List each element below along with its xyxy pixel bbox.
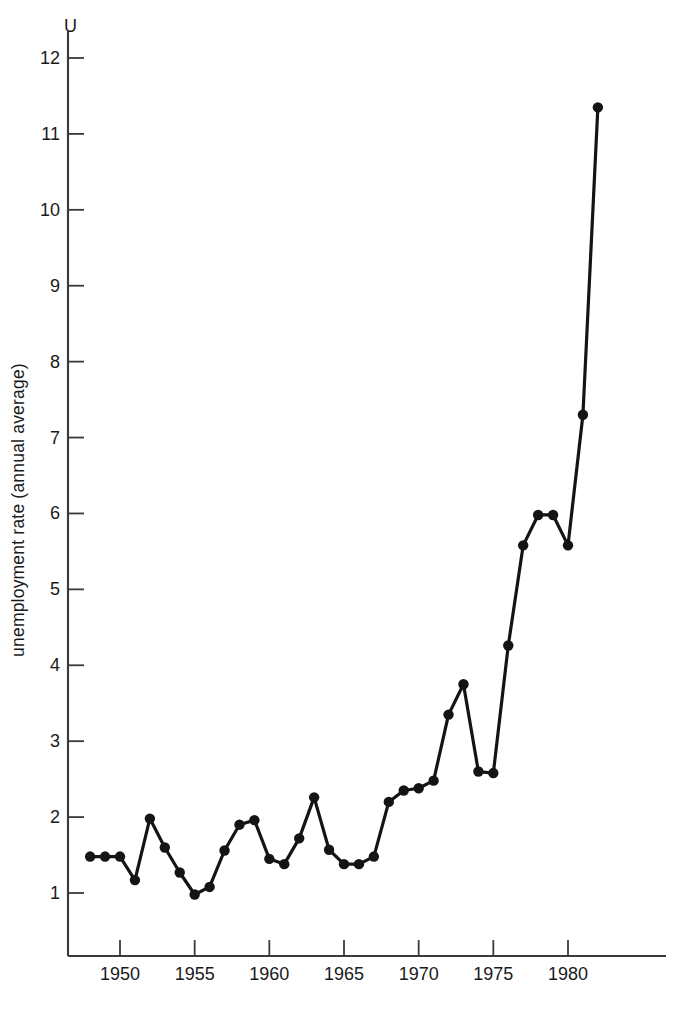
data-point-marker (145, 813, 155, 823)
data-point-marker (339, 859, 349, 869)
data-point-marker (533, 510, 543, 520)
data-point-marker (189, 889, 199, 899)
data-point-marker (249, 815, 259, 825)
data-point-marker (473, 766, 483, 776)
data-point-marker (234, 819, 244, 829)
data-point-marker (115, 851, 125, 861)
plot-area (0, 0, 695, 1015)
data-point-marker (443, 709, 453, 719)
data-point-marker (175, 867, 185, 877)
data-point-marker (279, 859, 289, 869)
data-point-marker (160, 842, 170, 852)
data-point-marker (578, 410, 588, 420)
data-point-marker (204, 882, 214, 892)
data-point-marker (384, 797, 394, 807)
data-point-marker (219, 845, 229, 855)
data-point-marker (399, 785, 409, 795)
data-point-marker (413, 783, 423, 793)
data-series (85, 102, 603, 900)
chart-figure: U unemployment rate (annual average) 123… (0, 0, 695, 1015)
data-point-marker (488, 768, 498, 778)
data-point-marker (518, 540, 528, 550)
data-point-marker (548, 510, 558, 520)
data-point-marker (294, 833, 304, 843)
data-point-marker (264, 854, 274, 864)
data-point-marker (428, 775, 438, 785)
axes (68, 30, 666, 956)
data-point-marker (458, 679, 468, 689)
data-point-marker (130, 875, 140, 885)
data-point-marker (354, 859, 364, 869)
data-point-marker (100, 851, 110, 861)
data-point-marker (369, 851, 379, 861)
data-point-marker (85, 851, 95, 861)
data-point-marker (324, 845, 334, 855)
data-point-marker (563, 540, 573, 550)
series-line (90, 107, 598, 894)
data-point-marker (503, 640, 513, 650)
data-point-marker (593, 102, 603, 112)
data-point-marker (309, 792, 319, 802)
